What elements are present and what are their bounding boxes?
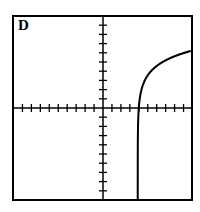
curve-line xyxy=(138,51,191,200)
axes xyxy=(13,16,192,200)
graph-plot xyxy=(0,0,200,212)
